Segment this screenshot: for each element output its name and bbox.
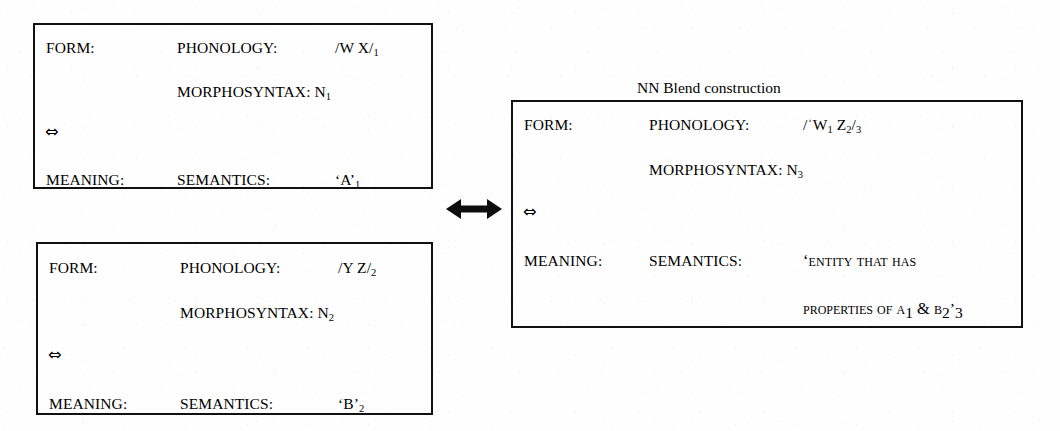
morphosyntax-label: MORPHOSYNTAX: N1: [177, 83, 331, 102]
input-sign-1-box: FORM: PHONOLOGY: /W X/1 MORPHOSYNTAX: N1…: [33, 23, 433, 189]
phonology-value: /W X/1: [335, 39, 379, 58]
phonology-label: PHONOLOGY:: [180, 259, 280, 277]
meaning-label: MEANING:: [46, 171, 124, 189]
morphosyntax-label: MORPHOSYNTAX: N2: [180, 304, 334, 323]
phonology-label: PHONOLOGY:: [177, 39, 277, 57]
form-label: FORM:: [524, 116, 573, 134]
double-headed-arrow-icon: [445, 196, 503, 222]
diagram-canvas: FORM: PHONOLOGY: /W X/1 MORPHOSYNTAX: N1…: [0, 0, 1060, 431]
double-arrow-link-icon: ⇔: [523, 204, 536, 220]
meaning-label: MEANING:: [524, 252, 602, 270]
form-label: FORM:: [46, 39, 95, 57]
form-label: FORM:: [49, 259, 98, 277]
input-sign-2-box: FORM: PHONOLOGY: /Y Z/2 MORPHOSYNTAX: N2…: [36, 242, 433, 415]
construction-caption: NN Blend construction: [637, 79, 781, 97]
blend-construction-box: FORM: PHONOLOGY: /ˈW1 Z2/3 MORPHOSYNTAX:…: [511, 100, 1023, 328]
double-arrow-link-icon: ⇔: [48, 347, 61, 363]
meaning-label: MEANING:: [49, 395, 127, 413]
phonology-label: PHONOLOGY:: [649, 116, 749, 134]
semantics-label: SEMANTICS:: [180, 395, 273, 413]
semantics-label: SEMANTICS:: [649, 252, 742, 270]
semantics-value-line-1: ‘ENTITY THAT HAS: [803, 251, 916, 271]
semantics-value: ‘B’2: [338, 395, 364, 414]
phonology-value: /Y Z/2: [338, 259, 376, 278]
morphosyntax-label: MORPHOSYNTAX: N3: [649, 161, 803, 180]
semantics-label: SEMANTICS:: [177, 171, 270, 189]
semantics-value-line-2: PROPERTIES OF A1 & B2’3: [803, 299, 963, 322]
double-arrow-link-icon: ⇔: [45, 124, 58, 140]
phonology-value: /ˈW1 Z2/3: [803, 116, 861, 135]
semantics-value: ‘A’1: [335, 171, 360, 190]
